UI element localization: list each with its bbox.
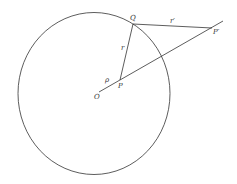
- label-P: P: [118, 83, 123, 90]
- label-rho: ρ: [105, 77, 109, 84]
- diagram-canvas: [0, 0, 237, 184]
- label-r-prime: r′: [170, 18, 175, 25]
- label-Q: Q: [130, 15, 136, 22]
- label-r: r: [121, 45, 124, 52]
- label-P-prime: P′: [213, 29, 219, 36]
- label-O: O: [94, 94, 100, 101]
- segment-Q-P: [120, 24, 133, 80]
